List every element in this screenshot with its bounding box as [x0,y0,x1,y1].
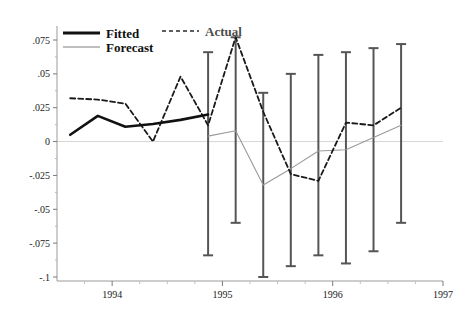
x-tick-label: 1994 [102,289,122,300]
legend-label-actual: Actual [205,24,242,39]
chart-container: .075.05.0250-.025-.05-.075-.1 1994199519… [0,0,469,316]
y-tick-label: .05 [38,68,51,79]
y-tick-label: 0 [45,136,50,147]
x-tick-label: 1996 [323,289,343,300]
legend-label-forecast: Forecast [106,40,154,55]
forecast-chart: .075.05.0250-.025-.05-.075-.1 1994199519… [0,0,469,316]
y-tick-label: -.05 [34,204,50,215]
y-tick-label: .025 [33,102,51,113]
y-tick-label: -.025 [29,170,50,181]
y-tick-label: -.1 [39,272,50,283]
x-tick-label: 1995 [212,289,232,300]
y-tick-label: -.075 [29,238,50,249]
legend-label-fitted: Fitted [106,26,140,41]
y-tick-label: .075 [33,35,51,46]
x-tick-label: 1997 [433,289,453,300]
